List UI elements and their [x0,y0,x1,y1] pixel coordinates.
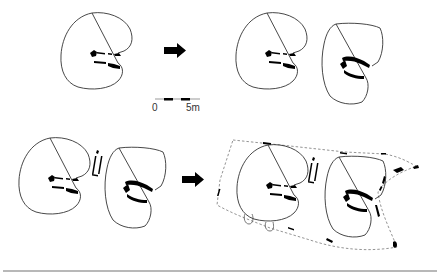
bottom-divider [3,270,437,272]
stage-3-structure-a [19,138,90,214]
stage-4-structure-b [325,156,386,237]
diagram-canvas: 0 5m [0,0,444,274]
arrow-right-icon [164,43,186,58]
scale-end-label: 5m [186,103,200,113]
arrow-right-icon [182,172,204,187]
scale-start-label: 0 [152,103,158,113]
stage-4-structure-a [237,145,308,221]
stage-2-structure-b [322,23,383,104]
stage-4-enclosure [217,140,419,250]
stage-2-structure-a [236,13,307,89]
stage-3-markers [92,150,103,177]
stage-1-structure [61,13,132,89]
stage-4-markers [308,157,319,184]
stage-3-structure-b [105,147,166,228]
scale-bar [155,98,200,101]
